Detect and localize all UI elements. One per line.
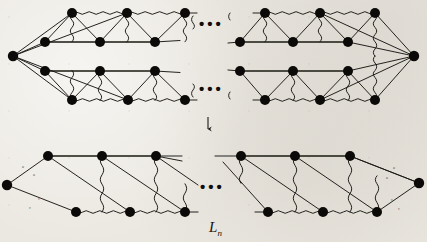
- node-r2-c1[interactable]: [40, 37, 50, 47]
- node-b2-c1[interactable]: [71, 207, 81, 217]
- caption-base: L: [209, 219, 218, 235]
- row4-wavy-chain: [72, 99, 197, 102]
- edge-label-7: v: [391, 197, 393, 202]
- node-r1-c4[interactable]: [260, 8, 270, 18]
- node-r2-c3[interactable]: [150, 37, 160, 47]
- caption-subscript: n: [218, 228, 223, 238]
- node-apex-left-top[interactable]: [8, 51, 18, 61]
- edge-label-4: v: [29, 205, 31, 210]
- bottom-right-apex-spokes: [350, 156, 419, 212]
- bottom-left-apex-spokes: [7, 156, 76, 212]
- figure-caption-ln: Ln: [209, 219, 222, 238]
- left-apex-spokes: [13, 13, 128, 100]
- edge-label-3: v: [38, 196, 40, 201]
- bottom-left-diagonals: [48, 156, 198, 212]
- node-r2-c4[interactable]: [235, 37, 245, 47]
- node-r2-c2[interactable]: [95, 37, 105, 47]
- node-r2-c6[interactable]: [343, 37, 353, 47]
- node-r1-c2[interactable]: [122, 8, 132, 18]
- diagonals-lower-right: [240, 71, 375, 100]
- node-r4-c2[interactable]: [123, 95, 133, 105]
- node-b2-c6[interactable]: [372, 207, 382, 217]
- node-apex-right-top[interactable]: [409, 51, 419, 61]
- edge-label-5: u: [393, 165, 395, 170]
- rungs-wavy-upper-right: [263, 13, 376, 56]
- node-apex-left-bottom[interactable]: [2, 180, 12, 190]
- node-r3-c1[interactable]: [40, 66, 50, 76]
- node-b1-c6[interactable]: [345, 151, 355, 161]
- node-apex-right-bottom[interactable]: [414, 178, 424, 188]
- node-r3-c4[interactable]: [235, 66, 245, 76]
- node-r3-c6[interactable]: [343, 66, 353, 76]
- node-r3-c2[interactable]: [95, 66, 105, 76]
- figure-canvas: ••• ••• ••• u u v v u u v v Ln: [0, 0, 427, 242]
- node-b2-c5[interactable]: [318, 207, 328, 217]
- ellipsis-bottom-graph: •••: [200, 179, 225, 194]
- edge-label-2: u: [33, 172, 35, 177]
- node-r1-c3[interactable]: [180, 8, 190, 18]
- node-r3-c5[interactable]: [288, 66, 298, 76]
- bottom-row-bottom-wavy-right: [255, 211, 377, 214]
- node-r4-c5[interactable]: [315, 95, 325, 105]
- node-r3-c3[interactable]: [150, 66, 160, 76]
- ellipsis-upper: •••: [199, 16, 224, 31]
- ellipsis-lower: •••: [199, 81, 224, 96]
- node-b1-c1[interactable]: [43, 151, 53, 161]
- graph-diagram-svg: [0, 0, 427, 242]
- row4-right-wavy-chain: [253, 99, 375, 102]
- node-r4-c6[interactable]: [370, 95, 380, 105]
- edge-label-1: u: [22, 164, 24, 169]
- row3-right-straight-chain: [228, 70, 348, 71]
- node-r1-c6[interactable]: [370, 8, 380, 18]
- node-b1-c3[interactable]: [151, 151, 161, 161]
- node-b1-c2[interactable]: [97, 151, 107, 161]
- row2-right-straight-chain: [228, 42, 348, 43]
- row1-wavy-chain: [72, 12, 197, 15]
- node-b2-c2[interactable]: [125, 207, 135, 217]
- diagonals-upper-right: [240, 13, 375, 42]
- node-r1-c5[interactable]: [315, 8, 325, 18]
- node-r2-c5[interactable]: [288, 37, 298, 47]
- node-r1-c1[interactable]: [67, 8, 77, 18]
- node-r4-c4[interactable]: [260, 95, 270, 105]
- edge-label-6: u: [386, 175, 388, 180]
- node-r4-c1[interactable]: [67, 95, 77, 105]
- node-b1-c5[interactable]: [290, 151, 300, 161]
- node-r4-c3[interactable]: [180, 95, 190, 105]
- bottom-row-bottom-wavy: [76, 211, 198, 214]
- row1-right-wavy-chain: [253, 12, 375, 15]
- node-b2-c4[interactable]: [263, 207, 273, 217]
- edge-label-8: v: [398, 206, 400, 211]
- node-b1-c4[interactable]: [236, 151, 246, 161]
- node-b2-c3[interactable]: [180, 207, 190, 217]
- right-apex-spokes: [320, 13, 414, 100]
